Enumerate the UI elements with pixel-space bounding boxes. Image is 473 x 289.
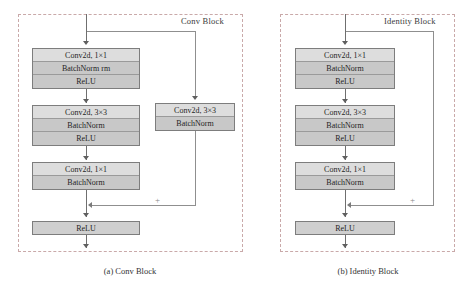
wire-identity-input xyxy=(345,14,346,32)
layer-row: Conv2d, 3×3 xyxy=(296,106,394,119)
layer-group-conv-3: Conv2d, 1×1 BatchNorm xyxy=(32,162,140,190)
layer-row: Conv2d, 3×3 xyxy=(156,104,234,117)
arrow-identity-into-group1 xyxy=(342,41,348,45)
layer-row: BatchNorm xyxy=(296,119,394,132)
wire-conv-shortcut-down xyxy=(195,131,196,205)
wire-identity-skip-down xyxy=(433,31,434,206)
layer-row: Conv2d, 1×1 xyxy=(33,163,139,176)
arrow-conv-into-group1 xyxy=(83,41,89,45)
layer-row: BatchNorm xyxy=(33,119,139,132)
wire-conv-input xyxy=(86,14,87,32)
caption-conv-block: (a) Conv Block xyxy=(60,266,200,276)
arrow-conv-into-group3 xyxy=(83,156,89,160)
layer-row: BatchNorm xyxy=(296,176,394,189)
layer-row: ReLU xyxy=(296,132,394,145)
wire-conv-g3-merge xyxy=(86,190,87,205)
layer-row: ReLU xyxy=(33,132,139,145)
arrow-identity-into-group2 xyxy=(342,99,348,103)
output-activation-identity: ReLU xyxy=(295,221,395,235)
arrow-conv-output xyxy=(83,244,89,248)
shortcut-branch-conv: Conv2d, 3×3 BatchNorm xyxy=(155,103,235,131)
layer-row: BatchNorm rm xyxy=(33,62,139,75)
arrow-conv-into-relu xyxy=(83,213,89,217)
merge-plus-conv: + xyxy=(155,196,160,205)
layer-row: BatchNorm xyxy=(296,62,394,75)
arrow-conv-into-group2 xyxy=(83,99,89,103)
wire-conv-skip-down xyxy=(195,31,196,98)
layer-group-identity-1: Conv2d, 1×1 BatchNorm ReLU xyxy=(295,48,395,89)
arrow-identity-merge xyxy=(347,202,351,208)
wire-conv-shortcut-merge xyxy=(90,205,196,206)
resnet-block-figure: Conv Block Conv2d, 1×1 BatchNorm rm ReLU… xyxy=(0,0,473,289)
layer-row: Conv2d, 3×3 xyxy=(33,106,139,119)
output-activation-conv: ReLU xyxy=(32,221,140,235)
layer-group-conv-2: Conv2d, 3×3 BatchNorm ReLU xyxy=(32,105,140,146)
panel-title-identity-block: Identity Block xyxy=(384,16,436,26)
wire-conv-skip-top xyxy=(86,31,196,32)
arrow-conv-skip-into-branch xyxy=(192,96,198,100)
layer-row: ReLU xyxy=(33,75,139,88)
layer-group-identity-3: Conv2d, 1×1 BatchNorm xyxy=(295,162,395,190)
layer-row: Conv2d, 1×1 xyxy=(296,49,394,62)
arrow-identity-output xyxy=(342,244,348,248)
layer-group-conv-1: Conv2d, 1×1 BatchNorm rm ReLU xyxy=(32,48,140,89)
arrow-conv-merge xyxy=(88,202,92,208)
layer-row: ReLU xyxy=(296,75,394,88)
wire-identity-shortcut-merge xyxy=(349,205,434,206)
layer-group-identity-2: Conv2d, 3×3 BatchNorm ReLU xyxy=(295,105,395,146)
merge-plus-identity: + xyxy=(410,196,415,205)
arrow-identity-into-relu xyxy=(342,213,348,217)
layer-row: Conv2d, 1×1 xyxy=(296,163,394,176)
caption-identity-block: (b) Identity Block xyxy=(298,266,438,276)
wire-identity-g3-merge xyxy=(345,190,346,205)
layer-row: BatchNorm xyxy=(156,117,234,130)
panel-title-conv-block: Conv Block xyxy=(181,16,224,26)
layer-row: BatchNorm xyxy=(33,176,139,189)
arrow-identity-into-group3 xyxy=(342,156,348,160)
layer-row: Conv2d, 1×1 xyxy=(33,49,139,62)
wire-identity-skip-top xyxy=(345,31,434,32)
